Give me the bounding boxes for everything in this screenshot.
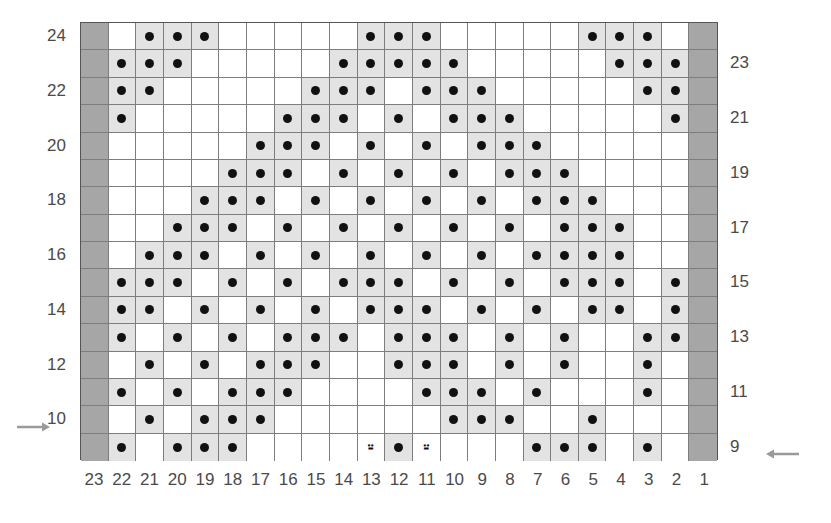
chart-cell[interactable]	[413, 269, 441, 296]
chart-cell[interactable]	[524, 324, 552, 351]
chart-cell[interactable]	[662, 215, 690, 242]
chart-cell[interactable]	[662, 187, 690, 214]
chart-cell[interactable]	[109, 352, 137, 379]
purl-dot-cell[interactable]	[662, 50, 690, 77]
chart-cell[interactable]	[109, 133, 137, 160]
purl-dot-cell[interactable]	[164, 242, 192, 269]
purl-dot-cell[interactable]	[441, 269, 469, 296]
chart-cell[interactable]	[275, 406, 303, 433]
chart-cell[interactable]	[496, 78, 524, 105]
selvedge-cell[interactable]	[81, 23, 109, 50]
chart-cell[interactable]	[606, 352, 634, 379]
purl-dot-cell[interactable]	[606, 50, 634, 77]
purl-dot-cell[interactable]	[413, 50, 441, 77]
purl-dot-cell[interactable]	[413, 187, 441, 214]
chart-cell[interactable]	[330, 379, 358, 406]
chart-cell[interactable]	[330, 297, 358, 324]
chart-cell[interactable]	[551, 105, 579, 132]
purl-dot-cell[interactable]	[551, 269, 579, 296]
chart-cell[interactable]	[385, 406, 413, 433]
chart-cell[interactable]	[109, 23, 137, 50]
chart-cell[interactable]	[247, 269, 275, 296]
purl-dot-cell[interactable]	[496, 160, 524, 187]
selvedge-cell[interactable]	[81, 50, 109, 77]
chart-cell[interactable]	[109, 242, 137, 269]
purl-dot-cell[interactable]	[524, 379, 552, 406]
chart-cell[interactable]	[413, 406, 441, 433]
purl-dot-cell[interactable]	[606, 23, 634, 50]
purl-dot-cell[interactable]	[385, 352, 413, 379]
purl-dot-cell[interactable]	[551, 160, 579, 187]
purl-dot-cell[interactable]	[413, 78, 441, 105]
chart-cell[interactable]	[634, 406, 662, 433]
selvedge-cell[interactable]	[81, 242, 109, 269]
purl-dot-cell[interactable]	[385, 105, 413, 132]
selvedge-cell[interactable]	[81, 297, 109, 324]
chart-cell[interactable]	[468, 269, 496, 296]
purl-dot-cell[interactable]	[109, 434, 137, 461]
chart-cell[interactable]	[330, 187, 358, 214]
purl-dot-cell[interactable]	[358, 297, 386, 324]
chart-cell[interactable]	[219, 78, 247, 105]
chart-cell[interactable]	[136, 324, 164, 351]
chart-cell[interactable]	[302, 215, 330, 242]
chart-cell[interactable]	[109, 187, 137, 214]
right-decrease-cell[interactable]: ⸚	[358, 434, 386, 461]
purl-dot-cell[interactable]	[579, 434, 607, 461]
purl-dot-cell[interactable]	[496, 133, 524, 160]
chart-cell[interactable]	[164, 105, 192, 132]
purl-dot-cell[interactable]	[164, 23, 192, 50]
chart-cell[interactable]	[551, 379, 579, 406]
chart-cell[interactable]	[468, 324, 496, 351]
chart-cell[interactable]	[247, 434, 275, 461]
chart-cell[interactable]	[219, 50, 247, 77]
purl-dot-cell[interactable]	[164, 324, 192, 351]
purl-dot-cell[interactable]	[136, 269, 164, 296]
chart-cell[interactable]	[192, 133, 220, 160]
chart-cell[interactable]	[136, 160, 164, 187]
purl-dot-cell[interactable]	[441, 379, 469, 406]
selvedge-cell[interactable]	[689, 50, 717, 77]
chart-cell[interactable]	[358, 379, 386, 406]
purl-dot-cell[interactable]	[385, 297, 413, 324]
chart-cell[interactable]	[164, 133, 192, 160]
purl-dot-cell[interactable]	[164, 269, 192, 296]
purl-dot-cell[interactable]	[330, 160, 358, 187]
purl-dot-cell[interactable]	[413, 352, 441, 379]
chart-cell[interactable]	[247, 50, 275, 77]
chart-cell[interactable]	[634, 297, 662, 324]
selvedge-cell[interactable]	[81, 324, 109, 351]
selvedge-cell[interactable]	[81, 379, 109, 406]
purl-dot-cell[interactable]	[136, 23, 164, 50]
chart-cell[interactable]	[164, 352, 192, 379]
purl-dot-cell[interactable]	[136, 406, 164, 433]
purl-dot-cell[interactable]	[219, 406, 247, 433]
purl-dot-cell[interactable]	[551, 187, 579, 214]
purl-dot-cell[interactable]	[164, 215, 192, 242]
chart-cell[interactable]	[385, 78, 413, 105]
purl-dot-cell[interactable]	[247, 160, 275, 187]
chart-cell[interactable]	[662, 133, 690, 160]
purl-dot-cell[interactable]	[441, 215, 469, 242]
purl-dot-cell[interactable]	[606, 297, 634, 324]
chart-cell[interactable]	[524, 23, 552, 50]
chart-cell[interactable]	[192, 379, 220, 406]
chart-cell[interactable]	[662, 434, 690, 461]
purl-dot-cell[interactable]	[662, 269, 690, 296]
chart-cell[interactable]	[136, 105, 164, 132]
purl-dot-cell[interactable]	[441, 406, 469, 433]
purl-dot-cell[interactable]	[192, 215, 220, 242]
purl-dot-cell[interactable]	[441, 105, 469, 132]
purl-dot-cell[interactable]	[496, 406, 524, 433]
chart-cell[interactable]	[385, 187, 413, 214]
chart-cell[interactable]	[192, 78, 220, 105]
selvedge-cell[interactable]	[689, 297, 717, 324]
chart-cell[interactable]	[551, 406, 579, 433]
chart-cell[interactable]	[192, 269, 220, 296]
chart-cell[interactable]	[275, 78, 303, 105]
chart-cell[interactable]	[579, 352, 607, 379]
purl-dot-cell[interactable]	[164, 50, 192, 77]
chart-cell[interactable]	[275, 242, 303, 269]
chart-cell[interactable]	[606, 160, 634, 187]
purl-dot-cell[interactable]	[413, 379, 441, 406]
